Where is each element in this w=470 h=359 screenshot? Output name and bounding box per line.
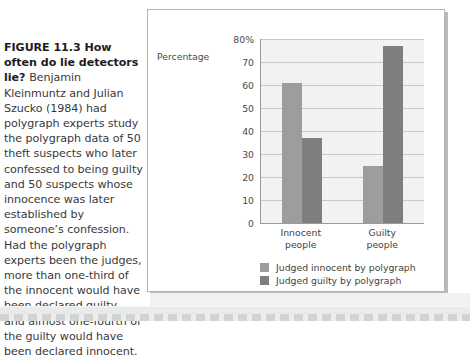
bar-innocent-judged-innocent [282,83,302,223]
bar-guilty-judged-innocent [363,166,383,224]
x-label-guilty-people: Guilty people [342,227,424,252]
plot-area [260,39,424,223]
bar-groups [261,39,424,223]
y-axis-title: Percentage [157,51,209,62]
x-label-line: people [342,239,424,251]
legend-label: Judged innocent by polygraph [276,262,416,273]
x-label-innocent-people: Innocent people [260,227,342,252]
y-tick: 20 [210,172,254,183]
y-tick: 50 [210,103,254,114]
page-bottom-band [0,307,470,321]
x-axis-line [260,223,424,225]
bar-group-innocent-people [261,39,343,223]
y-axis-ticks: 80% 70 60 50 40 30 20 10 0 [210,10,254,291]
y-tick: 70 [210,57,254,68]
legend-item-judged-innocent: Judged innocent by polygraph [260,262,416,273]
bar-chart: Percentage 80% 70 60 50 40 30 20 10 0 [148,10,444,291]
legend-swatch-icon [260,276,269,285]
y-tick: 60 [210,80,254,91]
bar-guilty-judged-guilty [383,46,403,223]
bar-group-guilty-people [343,39,425,223]
figure-card: Percentage 80% 70 60 50 40 30 20 10 0 [147,9,445,292]
page-band-wash [150,293,470,307]
y-tick: 0 [210,218,254,229]
y-tick: 10 [210,195,254,206]
x-label-line: Innocent [260,227,342,239]
y-tick: 30 [210,149,254,160]
x-axis-labels: Innocent people Guilty people [260,227,423,252]
y-tick: 80% [210,34,254,45]
legend-item-judged-guilty: Judged guilty by polygraph [260,275,416,286]
page-band-dashes [0,314,470,321]
x-label-line: people [260,239,342,251]
y-tick: 40 [210,126,254,137]
legend-swatch-icon [260,263,269,272]
bar-innocent-judged-guilty [302,138,322,223]
legend-label: Judged guilty by polygraph [276,275,401,286]
x-label-line: Guilty [342,227,424,239]
chart-legend: Judged innocent by polygraph Judged guil… [260,262,416,288]
